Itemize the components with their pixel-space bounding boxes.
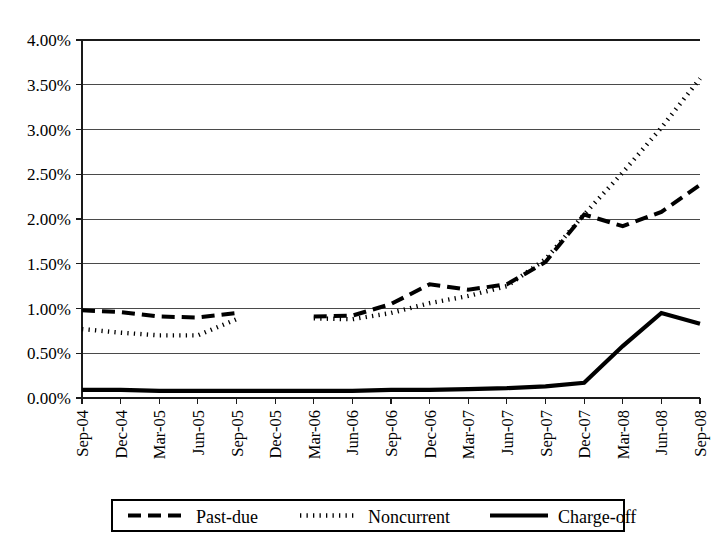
xtick-label: Jun-07 bbox=[498, 410, 517, 455]
gridlines-group bbox=[82, 85, 700, 354]
xtick-label: Sep-05 bbox=[228, 410, 247, 457]
xtick-label: Dec-06 bbox=[421, 410, 440, 459]
xtick-labels-group: Sep-04Dec-04Mar-05Jun-05Sep-05Dec-05Mar-… bbox=[73, 398, 710, 459]
series-line-past-due bbox=[82, 310, 237, 317]
legend-label-noncurrent: Noncurrent bbox=[368, 507, 450, 527]
xtick-label: Mar-06 bbox=[305, 410, 324, 459]
xtick-label: Mar-08 bbox=[614, 410, 633, 459]
ytick-label: 1.50% bbox=[27, 255, 71, 274]
series-group bbox=[82, 78, 700, 390]
ytick-labels-group: 0.00%0.50%1.00%1.50%2.00%2.50%3.00%3.50%… bbox=[27, 31, 82, 408]
series-line-charge-off bbox=[82, 313, 700, 391]
xtick-label: Dec-04 bbox=[112, 410, 131, 459]
legend-label-charge-off: Charge-off bbox=[558, 507, 636, 527]
xtick-label: Sep-06 bbox=[382, 410, 401, 457]
ytick-label: 2.00% bbox=[27, 210, 71, 229]
chart-legend: Past-dueNoncurrentCharge-off bbox=[112, 500, 636, 531]
ytick-label: 4.00% bbox=[27, 31, 71, 50]
ytick-label: 1.00% bbox=[27, 300, 71, 319]
xtick-label: Dec-07 bbox=[575, 410, 594, 459]
xtick-label: Dec-05 bbox=[266, 410, 285, 459]
xtick-label: Mar-07 bbox=[459, 410, 478, 459]
ytick-label: 3.00% bbox=[27, 121, 71, 140]
chart-container: 0.00%0.50%1.00%1.50%2.00%2.50%3.00%3.50%… bbox=[0, 0, 724, 544]
ytick-label: 2.50% bbox=[27, 165, 71, 184]
line-chart: 0.00%0.50%1.00%1.50%2.00%2.50%3.00%3.50%… bbox=[0, 0, 724, 544]
xtick-label: Mar-05 bbox=[150, 410, 169, 459]
legend-label-past-due: Past-due bbox=[196, 507, 258, 527]
series-line-noncurrent bbox=[82, 319, 237, 335]
xtick-label: Jun-08 bbox=[652, 410, 671, 455]
xtick-label: Jun-05 bbox=[189, 410, 208, 455]
series-line-past-due bbox=[314, 185, 700, 317]
ytick-label: 0.50% bbox=[27, 344, 71, 363]
xtick-label: Sep-08 bbox=[691, 410, 710, 457]
ytick-label: 3.50% bbox=[27, 76, 71, 95]
ytick-label: 0.00% bbox=[27, 389, 71, 408]
xtick-label: Sep-07 bbox=[537, 410, 556, 457]
xtick-label: Jun-06 bbox=[343, 410, 362, 455]
xtick-label: Sep-04 bbox=[73, 410, 92, 457]
